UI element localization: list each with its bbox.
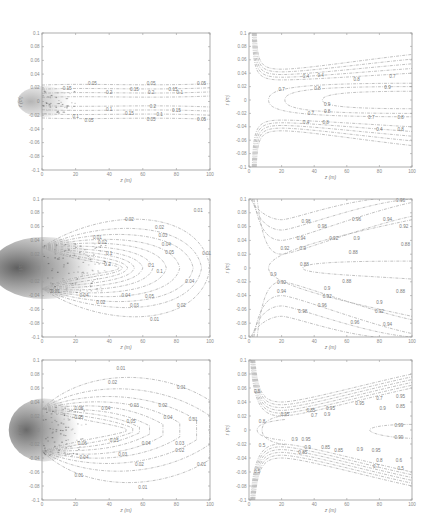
density-mark <box>62 413 64 414</box>
contour-panel-bottom-left: 0.010.010.020.020.030.010.040.040.050.05… <box>9 358 215 513</box>
density-mark <box>92 281 94 282</box>
density-mark <box>63 245 65 246</box>
contour-line <box>262 415 285 444</box>
density-mark <box>88 256 90 257</box>
x-tick-label: 40 <box>107 339 113 344</box>
density-mark <box>77 423 79 424</box>
density-mark <box>68 273 70 274</box>
y-tick-label: 0.06 <box>238 57 247 62</box>
axes-box <box>249 360 412 500</box>
density-mark <box>69 419 71 420</box>
density-mark <box>60 106 62 107</box>
density-mark <box>47 257 49 258</box>
y-tick-label: -0.04 <box>29 456 40 461</box>
y-tick-label: -0.06 <box>236 470 247 475</box>
density-mark <box>85 424 87 425</box>
density-mark <box>56 448 58 449</box>
contour-label: 0.88 <box>342 279 351 284</box>
contour-panel-middle-right: 0.980.980.960.960.940.920.940.920.90.880… <box>224 197 416 350</box>
contour-label: 0.98 <box>318 224 327 229</box>
density-mark <box>52 277 54 278</box>
density-mark <box>71 455 73 456</box>
density-mark <box>74 433 76 434</box>
contour-label: 0.03 <box>130 403 139 408</box>
contour-line <box>254 296 412 337</box>
density-mark <box>45 92 47 93</box>
density-mark <box>66 288 68 289</box>
density-mark <box>90 259 92 260</box>
density-mark <box>50 428 52 429</box>
density-mark <box>58 100 60 101</box>
density-mark <box>56 429 58 430</box>
contour-label: 0.9 <box>384 85 391 90</box>
contour-label: 0.99 <box>394 423 403 428</box>
contour-label: 0.8 <box>376 458 383 463</box>
contour-panel-bottom-right: 0.990.990.950.850.70.950.90.950.70.90.95… <box>224 358 416 513</box>
contour-label: 0.8 <box>397 115 404 120</box>
contour-label: 0.02 <box>155 225 164 230</box>
y-tick-label: -0.04 <box>29 127 40 132</box>
y-tick-label: -0.06 <box>236 307 247 312</box>
density-mark <box>83 253 85 254</box>
density-mark <box>75 247 77 248</box>
x-axis-label: z (m) <box>324 507 337 513</box>
contour-label: 0.94 <box>297 236 306 241</box>
contour-label: 0.06 <box>74 406 83 411</box>
contour-label: 0.03 <box>118 452 127 457</box>
density-mark <box>97 278 99 279</box>
contour-label: 0.2 <box>106 90 113 95</box>
y-axis-label: r (m) <box>17 262 23 273</box>
x-tick-label: 100 <box>408 339 416 344</box>
y-axis-label: r (m) <box>17 424 23 435</box>
y-tick-label: 0.08 <box>31 210 40 215</box>
density-mark <box>68 454 70 455</box>
density-mark <box>51 270 53 271</box>
density-mark <box>50 107 52 108</box>
density-mark <box>62 104 64 105</box>
x-tick-label: 20 <box>73 502 79 507</box>
contour-label: 0.85 <box>306 408 315 413</box>
contour-line <box>252 360 412 410</box>
density-mark <box>60 430 62 431</box>
y-tick-label: -0.1 <box>32 498 40 503</box>
contour-line <box>256 131 412 167</box>
density-mark <box>73 106 75 107</box>
y-tick-label: -0.06 <box>29 470 40 475</box>
density-mark <box>47 96 49 97</box>
contour-label: 0.9 <box>324 412 331 417</box>
contour-lines <box>252 33 412 167</box>
y-tick-label: 0.1 <box>240 197 247 202</box>
density-mark <box>55 407 57 408</box>
density-mark <box>93 257 95 258</box>
density-mark <box>50 283 52 284</box>
density-mark <box>69 410 71 411</box>
density-mark <box>80 439 82 440</box>
density-mark <box>63 419 65 420</box>
y-tick-label: 0.04 <box>238 238 247 243</box>
y-tick-label: 0 <box>37 428 40 433</box>
density-mark <box>65 435 67 436</box>
y-tick-label: 0 <box>37 99 40 104</box>
density-mark <box>63 266 65 267</box>
y-tick-label: 0.08 <box>238 44 247 49</box>
x-tick-label: 100 <box>206 502 214 507</box>
density-mark <box>54 420 56 421</box>
contour-label: 0.1 <box>148 263 155 268</box>
x-axis-label: z (m) <box>324 174 337 180</box>
contour-label: 0.92 <box>329 236 338 241</box>
density-mark <box>84 249 86 250</box>
density-mark <box>46 412 48 413</box>
density-mark <box>58 452 60 453</box>
contour-label: 0.02 <box>135 462 144 467</box>
x-tick-label: 0 <box>248 502 251 507</box>
density-mark <box>80 246 82 247</box>
contour-label: 0.05 <box>110 438 119 443</box>
density-mark <box>67 454 69 455</box>
y-tick-label: 0.02 <box>238 84 247 89</box>
contour-label: 0.1 <box>106 251 113 256</box>
y-tick-label: 0.08 <box>238 210 247 215</box>
density-mark <box>78 258 80 259</box>
density-mark <box>51 417 53 418</box>
density-mark <box>77 272 79 273</box>
contour-label: 0.05 <box>197 117 206 122</box>
